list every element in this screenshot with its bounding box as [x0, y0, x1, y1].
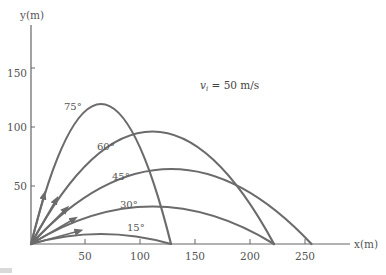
x-axis-label: x(m)	[354, 238, 378, 250]
angle-label-30: 30°	[120, 199, 138, 210]
projectile-trajectories-chart: 50 100 150 50 100 150 200 250 y(m) x(m) …	[0, 0, 386, 275]
initial-velocity-label: vi = 50 m/s	[200, 79, 259, 93]
y-tick-100: 100	[7, 121, 27, 133]
y-tick-150: 150	[7, 67, 27, 79]
angle-label-75: 75°	[64, 101, 82, 112]
x-tick-250: 250	[295, 250, 315, 262]
x-tick-150: 150	[185, 250, 205, 262]
angle-label-60: 60°	[97, 141, 115, 152]
angle-label-45: 45°	[112, 171, 130, 182]
y-axis-label: y(m)	[19, 9, 44, 21]
x-tick-200: 200	[240, 250, 260, 262]
y-tick-50: 50	[14, 180, 27, 192]
x-ticks: 50 100 150 200 250	[78, 239, 315, 262]
decorative-swatch	[0, 268, 12, 273]
trajectory-60	[31, 132, 274, 245]
angle-label-15: 15°	[127, 222, 145, 233]
trajectories	[31, 104, 312, 244]
x-tick-50: 50	[78, 250, 91, 262]
x-tick-100: 100	[130, 250, 150, 262]
